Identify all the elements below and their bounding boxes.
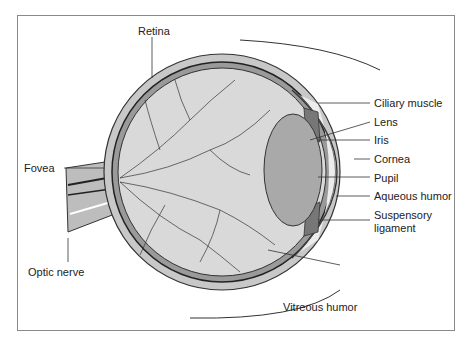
eye-diagram [0,0,469,345]
lens-shape [264,114,322,226]
label-fovea: Fovea [24,162,55,174]
label-retina: Retina [138,25,170,37]
label-ciliary-muscle: Ciliary muscle [374,97,442,109]
label-suspensory-2: ligament [374,222,416,234]
label-suspensory-1: Suspensory [374,209,432,221]
label-optic-nerve: Optic nerve [28,266,84,278]
label-cornea: Cornea [374,153,410,165]
label-iris: Iris [374,134,389,146]
label-pupil: Pupil [374,172,398,184]
label-aqueous-humor: Aqueous humor [374,190,452,202]
label-vitreous-humor: Vitreous humor [283,301,357,313]
label-lens: Lens [374,116,398,128]
